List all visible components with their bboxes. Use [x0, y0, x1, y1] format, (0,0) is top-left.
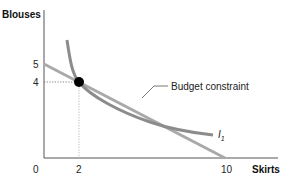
origin-label: 0: [33, 164, 39, 175]
indifference-label: I1: [218, 129, 225, 142]
budget-callout-label: Budget constraint: [171, 81, 249, 92]
x-tick-10: 10: [221, 164, 233, 175]
y-tick-5: 5: [33, 59, 39, 70]
callout-leader: [142, 86, 168, 98]
x-tick-2: 2: [76, 164, 82, 175]
y-axis-label: Blouses: [2, 9, 41, 20]
y-tick-4: 4: [33, 77, 39, 88]
optimum-point: [74, 77, 84, 87]
budget-line: [44, 64, 225, 158]
chart-canvas: Blouses Skirts 0 2 10 5 4 Budget constra…: [0, 0, 289, 181]
x-axis-label: Skirts: [252, 164, 280, 175]
